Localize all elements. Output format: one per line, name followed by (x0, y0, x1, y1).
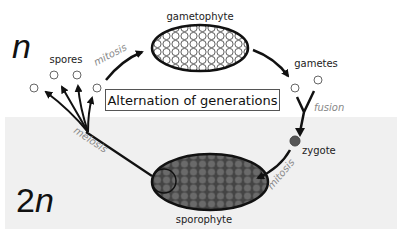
zygote-label: zygote (302, 145, 336, 156)
spore (73, 71, 81, 79)
zygote (290, 136, 300, 146)
fusion-label: fusion (314, 102, 344, 113)
gametes-label: gametes (294, 58, 338, 69)
spore (93, 84, 101, 92)
alternation-of-generations-diagram: n 2n gametophyte sporophyte meiosis spor… (0, 0, 402, 237)
diagram-title: Alternation of generations (105, 89, 280, 111)
diploid-label: 2n (16, 181, 54, 219)
gametophyte-label: gametophyte (166, 11, 233, 22)
spores-label: spores (50, 54, 83, 65)
sporophyte-label: sporophyte (176, 214, 232, 225)
haploid-label: n (12, 27, 31, 65)
spore (50, 71, 58, 79)
sporophyte-ellipse (152, 154, 268, 210)
gamete-production-arrow (253, 50, 288, 76)
gametophyte-ellipse (152, 25, 248, 71)
gamete (291, 84, 299, 92)
spore (30, 84, 38, 92)
gamete (314, 76, 322, 84)
